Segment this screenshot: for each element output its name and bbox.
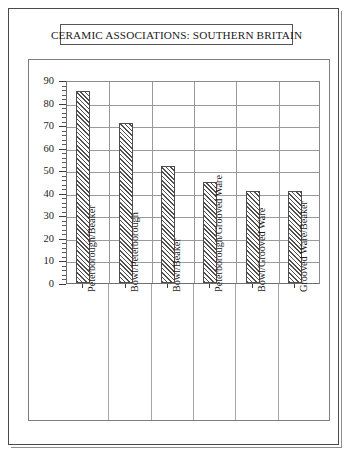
x-axis-tick (252, 284, 253, 288)
y-axis-label: 0 (32, 279, 54, 290)
y-axis-label: 50 (32, 166, 54, 177)
x-axis-tick (209, 284, 210, 288)
y-axis-label: 70 (32, 121, 54, 132)
gridline-horizontal (67, 150, 319, 151)
x-axis-label: Bowl/Grooved Ware (257, 208, 267, 292)
x-axis-label: Peterborough/Grooved Ware (214, 175, 224, 292)
gridline-vertical-extension (151, 284, 152, 420)
y-axis-label: 40 (32, 189, 54, 200)
y-axis-tick-major (59, 216, 66, 217)
y-axis-tick-major (59, 126, 66, 127)
x-axis-label: Bowl/Beaker (172, 238, 182, 292)
gridline-vertical (109, 82, 110, 283)
gridline-horizontal (67, 105, 319, 106)
gridline-vertical (152, 82, 153, 283)
plot-area (66, 81, 320, 284)
x-axis-label: Peterborough/Beaker (87, 205, 97, 292)
y-axis-tick-major (59, 149, 66, 150)
gridline-horizontal (67, 127, 319, 128)
gridline-horizontal (67, 240, 319, 241)
gridline-vertical (279, 82, 280, 283)
gridline-vertical-extension (108, 284, 109, 420)
y-axis-tick-major (59, 284, 66, 285)
x-axis-tick (294, 284, 295, 288)
gridline-vertical (236, 82, 237, 283)
y-axis-label: 60 (32, 143, 54, 154)
y-axis-label: 80 (32, 98, 54, 109)
y-axis-tick-major (59, 171, 66, 172)
gridline-vertical-extension (278, 284, 279, 420)
page-root: CERAMIC ASSOCIATIONS: SOUTHERN BRITAIN 0… (0, 0, 348, 463)
y-axis-tick-major (59, 261, 66, 262)
x-axis-label: Grooved Ware/Beaker (299, 201, 309, 292)
chart-title-box: CERAMIC ASSOCIATIONS: SOUTHERN BRITAIN (60, 24, 293, 45)
x-axis-tick (82, 284, 83, 288)
page-title: CERAMIC ASSOCIATIONS: SOUTHERN BRITAIN (51, 29, 302, 41)
gridline-horizontal (67, 262, 319, 263)
x-axis-label: Bowl/Peterborough (130, 212, 140, 292)
y-axis-label: 30 (32, 211, 54, 222)
y-axis-label: 10 (32, 256, 54, 267)
y-axis-label: 20 (32, 234, 54, 245)
y-axis-tick-major (59, 104, 66, 105)
gridline-horizontal (67, 195, 319, 196)
gridline-vertical-extension (193, 284, 194, 420)
gridline-vertical (194, 82, 195, 283)
y-axis-tick-major (59, 81, 66, 82)
y-axis-label: 90 (32, 76, 54, 87)
y-axis-tick-major (59, 239, 66, 240)
x-axis-tick (167, 284, 168, 288)
y-axis-tick-major (59, 194, 66, 195)
x-axis-tick (125, 284, 126, 288)
plot-wrapper: 0102030405060708090 Peterborough/BeakerB… (28, 59, 330, 421)
gridline-vertical-extension (235, 284, 236, 420)
gridline-horizontal (67, 217, 319, 218)
gridline-horizontal (67, 172, 319, 173)
